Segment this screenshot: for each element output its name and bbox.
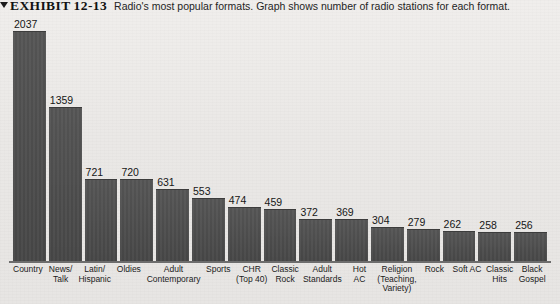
bar-chart-plot-area: 2037135972172063155347445937236930427926…: [0, 18, 560, 262]
bar-column: 258: [478, 18, 511, 262]
bar-value-label: 258: [478, 219, 511, 231]
bar-column: 304: [371, 18, 404, 262]
bar: [335, 219, 368, 262]
category-label: CHR(Top 40): [236, 265, 267, 304]
bar-column: 262: [443, 18, 476, 262]
category-label: ClassicRock: [270, 265, 300, 304]
category-label-line: AC: [345, 275, 375, 285]
category-label-line: (Top 40): [236, 275, 267, 285]
bar-column: 553: [192, 18, 225, 262]
bar-value-label: 721: [85, 166, 118, 178]
category-axis-labels: CountryNews/TalkLatin/HispanicOldiesAdul…: [13, 265, 547, 304]
bar: [264, 209, 297, 262]
bar-column: 721: [85, 18, 118, 262]
caption-text: Radio's most popular formats. Graph show…: [114, 0, 510, 12]
category-label: Sports: [203, 265, 233, 304]
bar-value-label: 459: [264, 196, 297, 208]
exhibit-caption: EXHIBIT12-13Radio's most popular formats…: [0, 0, 560, 12]
bar-column: 279: [407, 18, 440, 262]
category-label-line: Hispanic: [78, 275, 111, 285]
category-label-line: Sports: [203, 265, 233, 275]
x-axis-baseline: [9, 261, 551, 263]
bar-value-label: 631: [156, 176, 189, 188]
bar: [299, 219, 332, 262]
bar: [514, 232, 547, 262]
bar-column: 459: [264, 18, 297, 262]
category-label-line: Soft AC: [452, 265, 482, 275]
bar: [371, 227, 404, 262]
category-label-line: Talk: [46, 275, 76, 285]
bar-value-label: 2037: [13, 18, 46, 30]
category-label-line: Contemporary: [147, 275, 201, 285]
triangle-marker-icon: [0, 2, 8, 8]
category-label-line: Rock: [270, 275, 300, 285]
bar-column: 372: [299, 18, 332, 262]
bar: [120, 179, 153, 262]
category-label: News/Talk: [46, 265, 76, 304]
bar-column: 720: [120, 18, 153, 262]
bar: [13, 31, 46, 262]
bar-value-label: 369: [335, 206, 368, 218]
category-label: HotAC: [345, 265, 375, 304]
category-label: Oldies: [114, 265, 144, 304]
category-label-line: Rock: [420, 265, 450, 275]
category-label: ClassicHits: [485, 265, 515, 304]
bar-column: 2037: [13, 18, 46, 262]
category-label-line: Variety): [377, 284, 416, 294]
bar-value-label: 372: [299, 206, 332, 218]
bar: [443, 231, 476, 262]
category-label: Latin/Hispanic: [78, 265, 111, 304]
bar: [228, 207, 261, 262]
bar-value-label: 553: [192, 185, 225, 197]
category-label: BlackGospel: [517, 265, 547, 304]
category-label-line: Oldies: [114, 265, 144, 275]
bar: [478, 232, 511, 262]
bar-value-label: 262: [443, 218, 476, 230]
category-label: AdultStandards: [303, 265, 342, 304]
category-label: Soft AC: [452, 265, 482, 304]
bar: [49, 107, 82, 262]
category-label: Country: [13, 265, 43, 304]
bar: [192, 198, 225, 262]
category-label-line: Gospel: [517, 275, 547, 285]
category-label-line: Country: [13, 265, 43, 275]
bar-column: 369: [335, 18, 368, 262]
bar-value-label: 304: [371, 214, 404, 226]
bar-value-label: 474: [228, 194, 261, 206]
exhibit-number: 12-13: [74, 0, 108, 12]
category-label: Religion(Teaching,Variety): [377, 265, 416, 304]
category-label: AdultContemporary: [147, 265, 201, 304]
bar-column: 474: [228, 18, 261, 262]
bar-value-label: 720: [120, 166, 153, 178]
bar-value-label: 1359: [49, 94, 82, 106]
bar-column: 631: [156, 18, 189, 262]
category-label-line: Standards: [303, 275, 342, 285]
bar-series: 2037135972172063155347445937236930427926…: [13, 18, 547, 262]
bar-value-label: 279: [407, 216, 440, 228]
bar-column: 256: [514, 18, 547, 262]
category-label-line: Hits: [485, 275, 515, 285]
bar-value-label: 256: [514, 219, 547, 231]
bar: [156, 189, 189, 262]
bar: [407, 229, 440, 262]
bar: [85, 179, 118, 262]
exhibit-label: EXHIBIT: [10, 0, 71, 12]
category-label: Rock: [420, 265, 450, 304]
bar-column: 1359: [49, 18, 82, 262]
